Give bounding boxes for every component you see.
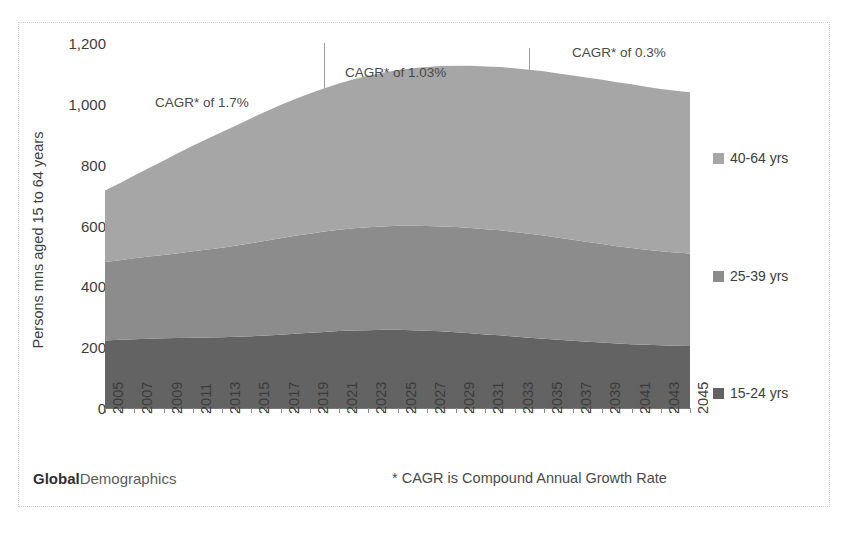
x-tick-label: 2039 — [607, 382, 623, 414]
footnote-cagr-definition: * CAGR is Compound Annual Growth Rate — [392, 470, 667, 486]
x-tick — [573, 408, 574, 413]
x-tick — [193, 408, 194, 413]
annotation-cagr-1: CAGR* of 1.7% — [155, 95, 249, 110]
y-axis-title: Persons mns aged 15 to 64 years — [30, 90, 46, 390]
legend-swatch-icon — [713, 388, 724, 399]
x-tick-label: 2037 — [578, 382, 594, 414]
x-tick-label: 2017 — [286, 382, 302, 414]
legend-label: 15-24 yrs — [730, 385, 788, 401]
x-tick-label: 2005 — [110, 382, 126, 414]
x-tick — [164, 408, 165, 413]
x-tick-label: 2031 — [490, 382, 506, 414]
x-tick — [281, 408, 282, 413]
x-tick — [427, 408, 428, 413]
y-tick-label: 0 — [48, 400, 106, 417]
x-tick — [222, 408, 223, 413]
y-tick-label: 400 — [48, 278, 106, 295]
x-tick — [368, 408, 369, 413]
x-tick — [515, 408, 516, 413]
y-tick-label: 800 — [48, 156, 106, 173]
x-tick-label: 2015 — [256, 382, 272, 414]
legend-label: 40-64 yrs — [730, 150, 788, 166]
legend-label: 25-39 yrs — [730, 268, 788, 284]
x-tick-label: 2023 — [373, 382, 389, 414]
x-tick — [690, 408, 691, 413]
x-tick — [544, 408, 545, 413]
legend-item-15-24-yrs[interactable]: 15-24 yrs — [713, 385, 788, 401]
x-tick-label: 2013 — [227, 382, 243, 414]
chart-screenshot: Persons mns aged 15 to 64 years 02004006… — [0, 0, 850, 535]
brand-part-demographics: Demographics — [80, 470, 177, 487]
x-tick-label: 2025 — [403, 382, 419, 414]
y-tick-label: 1,200 — [48, 35, 106, 52]
x-tick-label: 2021 — [344, 382, 360, 414]
brand-part-global: Global — [33, 470, 80, 487]
x-tick — [398, 408, 399, 413]
x-tick-label: 2035 — [549, 382, 565, 414]
annotation-cagr-2: CAGR* of 1.03% — [345, 65, 446, 80]
x-tick-label: 2033 — [520, 382, 536, 414]
x-tick — [456, 408, 457, 413]
x-tick — [602, 408, 603, 413]
x-tick — [251, 408, 252, 413]
y-axis-tick-labels: 02004006008001,0001,200 — [48, 0, 106, 535]
period-divider-2034 — [529, 48, 530, 70]
x-tick-label: 2029 — [461, 382, 477, 414]
x-tick — [661, 408, 662, 413]
legend-item-25-39-yrs[interactable]: 25-39 yrs — [713, 268, 788, 284]
x-tick — [105, 408, 106, 413]
x-tick-label: 2011 — [198, 383, 214, 414]
x-tick-label: 2019 — [315, 382, 331, 414]
x-tick — [632, 408, 633, 413]
legend-swatch-icon — [713, 153, 724, 164]
legend-item-40-64-yrs[interactable]: 40-64 yrs — [713, 150, 788, 166]
x-tick — [134, 408, 135, 413]
x-tick-label: 2027 — [432, 382, 448, 414]
x-tick — [485, 408, 486, 413]
annotation-cagr-3: CAGR* of 0.3% — [572, 45, 666, 60]
period-divider-2020 — [324, 43, 325, 88]
x-tick-label: 2043 — [666, 382, 682, 414]
y-tick-label: 600 — [48, 217, 106, 234]
brand-globaldemographics: GlobalDemographics — [33, 470, 176, 487]
x-tick — [339, 408, 340, 413]
x-tick-label: 2045 — [695, 382, 711, 414]
x-tick-label: 2007 — [139, 382, 155, 414]
x-tick-label: 2041 — [637, 382, 653, 414]
y-tick-label: 1,000 — [48, 95, 106, 112]
x-tick — [310, 408, 311, 413]
legend-swatch-icon — [713, 271, 724, 282]
y-tick-label: 200 — [48, 339, 106, 356]
x-tick-label: 2009 — [169, 382, 185, 414]
